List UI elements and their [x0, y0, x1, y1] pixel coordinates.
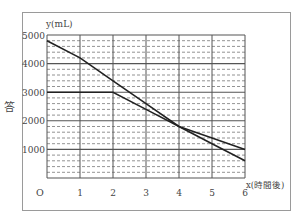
x-tick-label: 1: [77, 188, 83, 198]
y-tick-label: 2000: [22, 116, 45, 126]
y-axis-title: y(mL): [45, 19, 73, 29]
x-tick-label: 4: [176, 188, 182, 198]
y-tick-label: 1000: [22, 145, 45, 155]
x-tick-label: 3: [143, 188, 149, 198]
x-axis-title: x(時間後): [246, 180, 284, 190]
x-tick-label: 2: [110, 188, 116, 198]
origin-label: O: [36, 187, 44, 198]
line-chart: 10002000300040005000123456Oy(mL)x(時間後): [0, 0, 302, 217]
y-tick-label: 5000: [22, 31, 45, 41]
y-tick-label: 3000: [22, 88, 45, 98]
x-tick-label: 5: [209, 188, 215, 198]
y-tick-label: 4000: [22, 59, 45, 69]
